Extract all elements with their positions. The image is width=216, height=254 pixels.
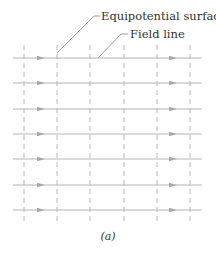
arrowhead-icon <box>169 157 177 161</box>
uniform-field-diagram: Equipotential surface Field line (a) <box>0 0 216 254</box>
arrowhead-icon <box>37 208 45 212</box>
arrowhead-icon <box>169 183 177 187</box>
arrowhead-icon <box>37 183 45 187</box>
arrowhead-icon <box>169 208 177 212</box>
arrowhead-icon <box>169 81 177 85</box>
equipotential-surface-label: Equipotential surface <box>101 9 216 23</box>
equipotential-leader-line <box>57 16 100 53</box>
arrowhead-icon <box>37 132 45 136</box>
arrowhead-icon <box>37 157 45 161</box>
arrowhead-icon <box>169 56 177 60</box>
arrowhead-icon <box>169 132 177 136</box>
field-lines <box>13 56 202 212</box>
figure-caption: (a) <box>100 230 115 243</box>
arrowhead-icon <box>37 81 45 85</box>
arrowhead-icon <box>37 107 45 111</box>
arrowhead-icon <box>37 56 45 60</box>
field-line-label: Field line <box>130 27 185 41</box>
arrowhead-icon <box>169 107 177 111</box>
